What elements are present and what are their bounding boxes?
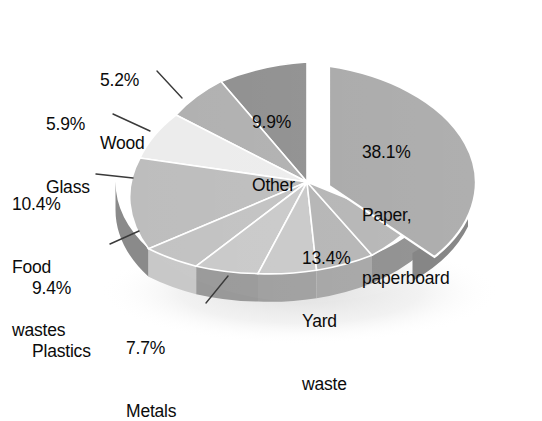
leader-line-wood <box>157 71 182 98</box>
label-metals-percent: 7.7% <box>126 338 176 359</box>
label-other-percent: 9.9% <box>252 112 295 133</box>
label-paper-name: Paper, <box>362 205 450 226</box>
label-paper-name2: paperboard <box>362 268 450 289</box>
label-plastics-name: Plastics <box>32 341 91 362</box>
label-paper-paperboard: 38.1% Paper, paperboard <box>362 100 450 331</box>
label-glass-percent: 5.9% <box>46 114 90 135</box>
label-wood-name: Wood <box>100 133 145 154</box>
label-yard-waste-name: Yard <box>302 311 351 332</box>
label-other-name: Other <box>252 175 295 196</box>
label-wood: 5.2% Wood <box>100 28 145 196</box>
label-yard-waste-percent: 13.4% <box>302 248 351 269</box>
label-plastics: 9.4% Plastics <box>32 236 91 404</box>
label-paper-percent: 38.1% <box>362 142 450 163</box>
label-metals-name: Metals <box>126 401 176 421</box>
label-yard-waste: 13.4% Yard waste <box>302 206 351 421</box>
label-wood-percent: 5.2% <box>100 70 145 91</box>
label-plastics-percent: 9.4% <box>32 278 91 299</box>
label-metals: 7.7% Metals <box>126 296 176 421</box>
label-food-wastes-percent: 10.4% <box>12 194 65 215</box>
label-yard-waste-name2: waste <box>302 374 351 395</box>
label-other: 9.9% Other <box>252 70 295 238</box>
